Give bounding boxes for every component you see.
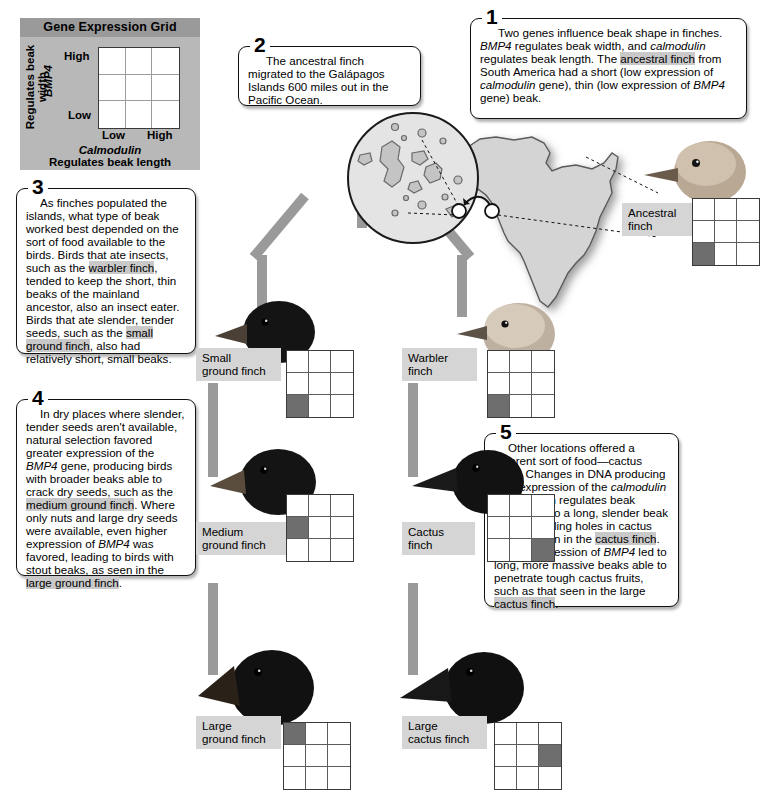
legend-body: BMP4 Regulates beak width High Low Low H… [20, 37, 200, 170]
legend-cell [99, 48, 126, 75]
callout-text: The ancestral finch migrated to the Galá… [248, 54, 411, 106]
grid-cell [488, 351, 510, 373]
label-warbler-finch: Warbler finch [402, 348, 477, 381]
grid-cell [331, 539, 353, 561]
grid-cell [737, 199, 759, 221]
grid-cell [309, 517, 331, 539]
grid-large-cactus-finch [494, 722, 562, 790]
legend-y-high-label: High [64, 50, 90, 62]
grid-cell [693, 199, 715, 221]
legend-cell [126, 48, 153, 75]
label-small-ground-finch: Small ground finch [196, 348, 281, 381]
grid-cell [309, 373, 331, 395]
grid-cell [309, 539, 331, 561]
grid-cell [693, 221, 715, 243]
label-large-cactus-finch: Large cactus finch [402, 716, 487, 749]
gene-expression-legend: Gene Expression Grid BMP4 Regulates beak… [20, 18, 200, 170]
grid-cell [284, 745, 306, 767]
grid-cell [331, 351, 353, 373]
label-ancestral-finch: Ancestral finch [622, 203, 695, 236]
legend-x-axis-desc: Regulates beak length [20, 156, 200, 168]
legend-cell [152, 48, 179, 75]
grid-cell [287, 517, 309, 539]
legend-grid [98, 47, 180, 129]
callout-number: 3 [28, 177, 48, 197]
legend-x-high-label: High [147, 129, 173, 141]
grid-cell [488, 539, 510, 561]
legend-x-low-label: Low [102, 129, 125, 141]
legend-cell [99, 101, 126, 128]
south-america-shape [460, 137, 618, 307]
grid-cell [495, 767, 517, 789]
grid-cell [510, 373, 532, 395]
grid-cell [510, 539, 532, 561]
grid-cell [309, 351, 331, 373]
legend-x-axis-gene: Calmodulin [20, 144, 200, 156]
grid-cell [488, 395, 510, 417]
grid-small-ground-finch [286, 350, 354, 418]
grid-cell [287, 373, 309, 395]
grid-cell [510, 351, 532, 373]
grid-cell [488, 373, 510, 395]
legend-cell [99, 75, 126, 102]
grid-cell [737, 243, 759, 265]
grid-large-ground-finch [283, 722, 351, 790]
grid-cell [532, 495, 554, 517]
legend-cell [152, 75, 179, 102]
grid-cell [284, 723, 306, 745]
grid-cell [331, 495, 353, 517]
grid-cell [331, 517, 353, 539]
label-medium-ground-finch: Medium ground finch [196, 522, 287, 555]
grid-cell [532, 395, 554, 417]
grid-cell [539, 745, 561, 767]
grid-cell [532, 351, 554, 373]
grid-cell [715, 221, 737, 243]
mainland-marker [485, 204, 499, 218]
callout-text: Two genes influence beak shape in finche… [480, 26, 737, 104]
label-large-ground-finch: Large ground finch [196, 716, 281, 749]
grid-cell [287, 351, 309, 373]
bird-ancestral [640, 130, 750, 208]
grid-cell [331, 373, 353, 395]
legend-y-axis-desc: Regulates beak width [24, 37, 48, 137]
grid-cell [532, 517, 554, 539]
grid-cell [328, 767, 350, 789]
grid-cell [693, 243, 715, 265]
callout-3: 3 As finches populated the islands, what… [16, 188, 196, 354]
grid-cell [287, 539, 309, 561]
grid-cell [495, 745, 517, 767]
grid-cell [532, 373, 554, 395]
grid-cell [539, 767, 561, 789]
grid-cell [287, 495, 309, 517]
grid-cell [309, 495, 331, 517]
grid-cell [306, 723, 328, 745]
callout-number: 4 [28, 388, 48, 408]
grid-warbler-finch [487, 350, 555, 418]
callout-number: 1 [482, 7, 502, 27]
grid-cell [306, 745, 328, 767]
grid-cactus-finch [487, 494, 555, 562]
grid-cell [715, 199, 737, 221]
grid-cell [517, 723, 539, 745]
grid-cell [517, 767, 539, 789]
legend-cell [126, 75, 153, 102]
grid-cell [328, 723, 350, 745]
grid-cell [715, 243, 737, 265]
legend-y-low-label: Low [68, 109, 91, 121]
legend-cell [126, 101, 153, 128]
callout-4: 4 In dry places where slender, tender se… [16, 399, 196, 576]
callout-text: In dry places where slender, tender seed… [26, 407, 186, 589]
grid-cell [488, 517, 510, 539]
grid-cell [331, 395, 353, 417]
grid-cell [510, 395, 532, 417]
grid-cell [306, 767, 328, 789]
label-cactus-finch: Cactus finch [402, 522, 475, 555]
grid-cell [517, 745, 539, 767]
grid-cell [510, 495, 532, 517]
grid-cell [510, 517, 532, 539]
grid-ancestral-finch [692, 198, 760, 266]
callout-1: 1 Two genes influence beak shape in finc… [470, 18, 747, 119]
grid-cell [328, 745, 350, 767]
grid-cell [488, 495, 510, 517]
